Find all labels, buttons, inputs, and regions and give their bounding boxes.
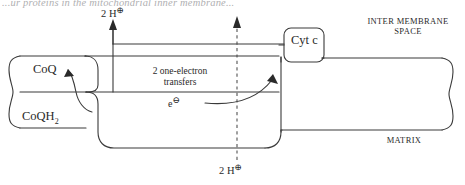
membrane-right-bracket [442, 58, 453, 130]
complex-upper-left-corner [85, 56, 98, 92]
coqh2-label: CoQH2 [22, 109, 59, 123]
coqh2-subscript: 2 [55, 117, 59, 126]
inter-membrane-space-label: INTER MEMBRANESPACE [355, 17, 461, 36]
electron-transfers-line1: 2 one-electron [153, 66, 208, 76]
proton-top-text: 2 H [101, 8, 116, 19]
coq-cycle-arrow [68, 70, 92, 112]
proton-bottom-text: 2 H [219, 165, 234, 176]
proton-dashed-arrowhead [233, 16, 241, 28]
proton-bottom-charge-icon: ⊕ [234, 162, 242, 172]
membrane-left-bracket [9, 56, 20, 128]
ims-line1: INTER MEMBRANE [367, 16, 448, 26]
proton-top-charge-icon: ⊕ [116, 5, 124, 15]
cytc-electron-arrowhead [267, 74, 278, 84]
complex-lower-right-corner [265, 130, 281, 148]
proton-bottom-label: 2 H⊕ [219, 165, 242, 177]
electron-transfers-line2: transfers [164, 77, 197, 87]
coqh2-base-text: CoQH [22, 109, 55, 123]
electron-label: e⊖ [168, 98, 180, 109]
coq-label: CoQ [33, 62, 57, 76]
cyt-c-label: Cyt c [291, 33, 318, 47]
electron-transfers-label: 2 one-electrontransfers [126, 66, 234, 87]
coq-cycle-arrowhead [64, 69, 74, 77]
ims-line2: SPACE [394, 26, 421, 36]
proton-top-label: 2 H⊕ [101, 8, 124, 20]
proton-up-arrowhead [109, 19, 117, 30]
electron-charge-icon: ⊖ [172, 95, 180, 105]
matrix-label: MATRIX [360, 136, 448, 146]
